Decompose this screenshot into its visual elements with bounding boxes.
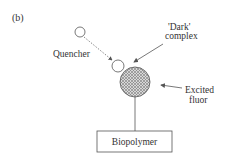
panel-label: (b): [12, 12, 24, 24]
excited-fluor-label-line1: Excited: [185, 85, 214, 95]
free-quencher-circle: [75, 27, 85, 37]
bound-quencher-circle: [112, 60, 124, 72]
quenching-diagram: (b) Quencher 'Dark' complex Excited fluo…: [0, 0, 226, 160]
excited-fluor-label-line2: fluor: [189, 95, 208, 105]
dark-complex-label-line2: complex: [165, 31, 198, 41]
biopolymer-label: Biopolymer: [112, 137, 158, 147]
quencher-label: Quencher: [53, 49, 91, 59]
excited-fluor-arrow: [161, 85, 182, 88]
excited-fluor-circle: [120, 67, 150, 97]
dark-complex-arrow: [134, 44, 163, 62]
